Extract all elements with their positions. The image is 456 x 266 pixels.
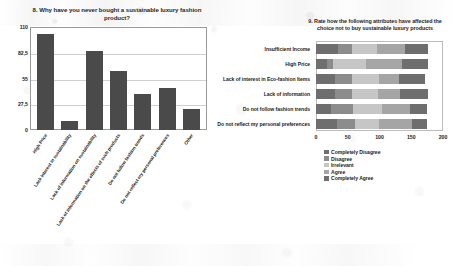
right-chart-legend-label: Completely Agree	[331, 175, 373, 181]
left-chart-x-tick: Other	[183, 132, 200, 204]
left-chart-x-tick-label: High Price	[31, 133, 48, 154]
right-chart-legend-item: Irrelevant	[324, 162, 380, 168]
right-chart-bar-segment	[335, 89, 352, 99]
right-chart-bar-segment	[316, 119, 337, 129]
left-chart-y-tick: 0	[25, 127, 28, 133]
right-chart-bar-segment	[352, 74, 379, 84]
right-chart-category-label: Insufficient Income	[228, 44, 313, 54]
right-chart-x-tick: 100	[375, 134, 384, 140]
right-chart-title: 9. Rate how the following attributes hav…	[300, 18, 450, 32]
right-chart-legend-item: Completely Disagree	[324, 149, 380, 155]
right-chart-bar-segment	[333, 59, 366, 69]
right-chart-legend-label: Irrelevant	[331, 162, 353, 168]
right-chart-bar-segment	[352, 89, 377, 99]
left-chart-bar	[37, 34, 54, 130]
right-chart-x-tick: 0	[315, 134, 318, 140]
right-chart-bar-segment	[412, 119, 427, 129]
left-chart-y-tick: 27,5	[18, 101, 28, 107]
right-chart-bar-segment	[378, 89, 401, 99]
legend-swatch-icon	[324, 150, 329, 155]
left-chart-bar	[86, 51, 103, 130]
right-chart-category-label: Lack of interest in Eco-fashion Items	[228, 74, 313, 84]
bar-chart-reasons-not-buying: 8. Why have you never bought a sustainab…	[4, 6, 218, 206]
right-chart-bar-segment	[338, 44, 352, 54]
right-chart-bars	[316, 41, 443, 131]
right-chart-category-label: High Price	[228, 59, 313, 69]
right-chart-legend-item: Disagree	[324, 156, 380, 162]
legend-swatch-icon	[324, 163, 329, 168]
legend-swatch-icon	[324, 176, 329, 181]
left-chart-x-tick: Do not reflect my personal preferences	[159, 132, 176, 204]
left-chart-title: 8. Why have you never bought a sustainab…	[28, 6, 206, 22]
left-chart-bar	[183, 109, 200, 130]
right-chart-bar-segment	[316, 74, 335, 84]
left-chart-x-tick-label: Other	[184, 133, 195, 146]
right-chart-bar-segment	[379, 74, 399, 84]
right-chart-bar-row	[316, 59, 443, 69]
right-chart-bar-segment	[410, 104, 427, 114]
right-chart-legend-label: Disagree	[331, 156, 352, 162]
right-chart-category-label: Do not reflect my personal preferences	[228, 119, 313, 129]
left-chart-y-tick: 55	[22, 76, 28, 82]
scan-artifact-bottom	[0, 244, 456, 266]
right-chart-legend-item: Completely Agree	[324, 175, 380, 181]
right-chart-category-label: Do not follow fashion trends	[228, 104, 313, 114]
right-chart-bar-segment	[379, 119, 412, 129]
right-chart-bar-segment	[316, 104, 331, 114]
left-chart-bar	[159, 88, 176, 130]
right-chart-bar-row	[316, 44, 443, 54]
right-chart-bar-segment	[377, 44, 405, 54]
right-chart-category-label: Lack of information	[228, 89, 313, 99]
left-chart-y-axis: 11082,55527,50	[8, 27, 28, 130]
right-chart-bar-segment	[352, 44, 377, 54]
right-chart-bar-segment	[316, 89, 335, 99]
right-chart-x-axis: 050100150200	[316, 132, 443, 142]
right-chart-bar-segment	[402, 59, 428, 69]
left-chart-y-tick: 110	[20, 24, 28, 30]
right-chart-x-tick: 150	[407, 134, 416, 140]
right-chart-bar-segment	[355, 119, 378, 129]
right-chart-bar-row	[316, 74, 443, 84]
right-chart-x-tick: 50	[345, 134, 351, 140]
right-chart-legend: Completely DisagreeDisagreeIrrelevantAgr…	[324, 149, 380, 181]
stacked-bar-chart-attribute-ratings: 9. Rate how the following attributes hav…	[228, 6, 456, 196]
right-chart-bar-row	[316, 104, 443, 114]
left-chart-bar	[110, 71, 127, 130]
right-chart-bar-segment	[382, 104, 410, 114]
legend-swatch-icon	[324, 170, 329, 175]
left-chart-y-tick: 82,5	[18, 50, 28, 56]
right-chart-bar-segment	[405, 44, 428, 54]
left-chart-x-axis-labels: High PriceLack interest in sustainabilit…	[30, 132, 207, 204]
right-chart-legend-label: Completely Disagree	[331, 149, 380, 155]
right-chart-category-labels: Insufficient IncomeHigh PriceLack of int…	[228, 41, 313, 131]
right-chart-bar-segment	[400, 89, 428, 99]
right-chart-bar-segment	[316, 59, 327, 69]
right-chart-legend-item: Agree	[324, 169, 380, 175]
right-chart-bar-segment	[331, 104, 353, 114]
right-chart-bar-segment	[366, 59, 402, 69]
legend-swatch-icon	[324, 156, 329, 161]
left-chart-bars	[30, 27, 207, 130]
right-chart-bar-segment	[335, 74, 352, 84]
right-chart-bar-segment	[399, 74, 426, 84]
right-chart-bar-row	[316, 119, 443, 129]
right-chart-bar-row	[316, 89, 443, 99]
left-chart-bar	[134, 94, 151, 130]
right-chart-legend-label: Agree	[331, 169, 345, 175]
left-chart-bar	[61, 121, 78, 130]
right-chart-bar-segment	[353, 104, 382, 114]
right-chart-bar-segment	[337, 119, 355, 129]
right-chart-x-tick: 200	[439, 134, 448, 140]
right-chart-bar-segment	[316, 44, 338, 54]
